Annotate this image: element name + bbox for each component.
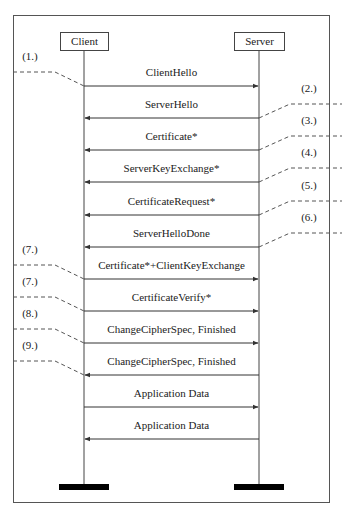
- step-label: (7.): [22, 243, 38, 256]
- message-label: Application Data: [134, 419, 210, 431]
- server-label: Server: [245, 35, 274, 47]
- step-label: (3.): [301, 114, 317, 127]
- message-7: CertificateVerify*(7.): [13, 275, 258, 311]
- message-label: Certificate*: [146, 130, 198, 142]
- message-6: Certificate*+ClientKeyExchange(7.): [13, 243, 258, 279]
- message-label: Certificate*+ClientKeyExchange: [98, 259, 245, 271]
- server-end-bar: [234, 484, 284, 490]
- tls-sequence-diagram: Client Server ClientHello(1.)ServerHello…: [0, 0, 342, 516]
- message-1: ServerHello(2.): [85, 82, 342, 118]
- step-label: (1.): [22, 50, 38, 63]
- step-label: (8.): [22, 307, 38, 320]
- message-list: ClientHello(1.)ServerHello(2.)Certificat…: [13, 50, 342, 439]
- step-label: (2.): [301, 82, 317, 95]
- client-label: Client: [71, 35, 98, 47]
- message-8: ChangeCipherSpec, Finished(8.): [13, 307, 258, 343]
- message-label: ClientHello: [146, 66, 198, 78]
- message-3: ServerKeyExchange*(4.): [85, 146, 342, 182]
- message-label: ChangeCipherSpec, Finished: [107, 355, 236, 367]
- message-label: ServerHello: [145, 98, 199, 110]
- message-label: ChangeCipherSpec, Finished: [107, 323, 236, 335]
- message-10: Application Data: [84, 387, 258, 407]
- message-label: CertificateRequest*: [128, 195, 215, 207]
- message-label: Application Data: [134, 387, 210, 399]
- step-connector: [13, 72, 84, 86]
- message-0: ClientHello(1.): [13, 50, 258, 86]
- step-label: (5.): [301, 179, 317, 192]
- step-label: (9.): [22, 339, 38, 352]
- message-5: ServerHelloDone(6.): [85, 211, 342, 247]
- message-9: ChangeCipherSpec, Finished(9.): [13, 339, 259, 375]
- step-label: (6.): [301, 211, 317, 224]
- step-label: (4.): [301, 146, 317, 159]
- step-connector: [13, 361, 84, 375]
- message-label: ServerKeyExchange*: [124, 162, 220, 174]
- step-label: (7.): [22, 275, 38, 288]
- message-2: Certificate*(3.): [85, 114, 342, 150]
- message-label: ServerHelloDone: [133, 227, 210, 239]
- message-label: CertificateVerify*: [132, 291, 211, 303]
- client-end-bar: [59, 484, 109, 490]
- message-11: Application Data: [85, 419, 259, 439]
- message-4: CertificateRequest*(5.): [85, 179, 342, 215]
